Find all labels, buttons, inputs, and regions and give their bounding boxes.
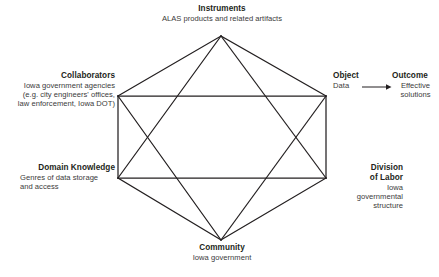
node-division-of-labor-title-line-1: Division	[331, 163, 403, 173]
node-instruments-description: ALAS products and related artifacts	[117, 14, 327, 23]
node-community-description: Iowa government	[117, 253, 327, 262]
node-division-of-labor-description-line-3: structure	[331, 201, 403, 210]
node-collaborators-description-line-1: Iowa government agencies	[2, 81, 115, 90]
node-community-title: Community	[117, 243, 327, 253]
node-instruments-title: Instruments	[117, 4, 327, 14]
node-division-of-labor-title-line-2: of Labor	[331, 173, 403, 183]
edge-instruments-collaborators	[118, 36, 221, 96]
node-domain-knowledge-title: Domain Knowledge	[2, 163, 115, 173]
node-collaborators-description-line-2: (e.g. city engineers' offices,	[2, 90, 115, 99]
node-community: Community Iowa government	[117, 243, 327, 262]
node-connection-network	[0, 0, 439, 277]
node-collaborators: Collaborators Iowa government agencies (…	[2, 71, 115, 108]
node-domain-knowledge: Domain Knowledge Genres of data storage …	[2, 163, 115, 191]
activity-system-diagram: Instruments ALAS products and related ar…	[0, 0, 439, 277]
node-outcome: Outcome Effective solutions	[392, 71, 439, 99]
node-outcome-description-line-1: Effective	[392, 81, 439, 90]
node-collaborators-description-line-3: law enforcement, Iowa DOT)	[2, 99, 115, 108]
node-instruments: Instruments ALAS products and related ar…	[117, 4, 327, 23]
node-collaborators-title: Collaborators	[2, 71, 115, 81]
node-object: Object Data	[333, 71, 379, 90]
node-outcome-description-line-2: solutions	[392, 90, 439, 99]
node-division-of-labor-description-line-2: governmental	[331, 192, 403, 201]
node-object-title: Object	[333, 71, 379, 81]
edge-instruments-object	[221, 36, 326, 96]
node-division-of-labor: Division of Labor Iowa governmental stru…	[331, 163, 403, 210]
node-division-of-labor-description-line-1: Iowa	[331, 183, 403, 192]
edge-domainknowledge-community	[118, 178, 221, 240]
edge-community-collaborators	[118, 96, 221, 240]
node-domain-knowledge-description-line-1: Genres of data storage	[2, 173, 115, 182]
edge-community-object	[221, 96, 326, 240]
node-domain-knowledge-description-line-2: and access	[2, 182, 115, 191]
edge-instruments-divisionoflabor	[221, 36, 326, 178]
node-object-description: Data	[333, 81, 379, 90]
node-outcome-title: Outcome	[392, 71, 439, 81]
edge-divisionoflabor-community	[221, 178, 326, 240]
edge-instruments-domainknowledge	[118, 36, 221, 178]
